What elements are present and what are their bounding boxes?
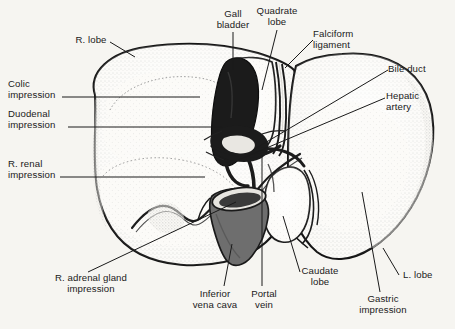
- label-r-renal-impression: R. renal impression: [8, 158, 82, 181]
- label-inferior-vena-cava: Inferior vena cava: [182, 288, 248, 311]
- label-falciform-ligament: Falciform ligament: [313, 28, 383, 51]
- label-l-lobe: L. lobe: [403, 269, 451, 280]
- liver-anatomy-figure: R. lobe Gall bladder Quadrate lobe Falci…: [0, 0, 455, 329]
- label-bile-duct: Bile duct: [388, 63, 450, 74]
- label-r-adrenal-gland-impression: R. adrenal gland impression: [30, 272, 152, 295]
- liver-outline-group: [92, 44, 434, 265]
- label-hepatic-artery: Hepatic artery: [386, 90, 448, 113]
- label-portal-vein: Portal vein: [240, 288, 288, 311]
- label-duodenal-impression: Duodenal impression: [8, 108, 88, 131]
- label-colic-impression: Colic impression: [8, 78, 82, 101]
- leader-l-lobe: [383, 248, 399, 275]
- label-gastric-impression: Gastric impression: [340, 293, 426, 316]
- label-r-lobe: R. lobe: [64, 34, 118, 45]
- label-caudate-lobe: Caudate lobe: [292, 265, 348, 288]
- label-quadrate-lobe: Quadrate lobe: [244, 5, 310, 28]
